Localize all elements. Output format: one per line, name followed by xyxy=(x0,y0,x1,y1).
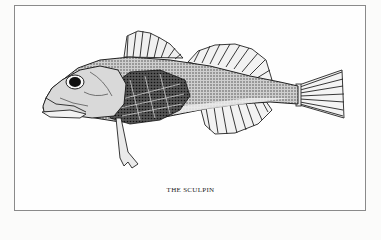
eye xyxy=(66,75,84,89)
caudal-fin xyxy=(296,70,344,118)
first-dorsal-fin xyxy=(124,31,183,59)
illustration-caption: THE SCULPIN xyxy=(0,186,381,194)
pelvic-fin xyxy=(116,118,138,168)
